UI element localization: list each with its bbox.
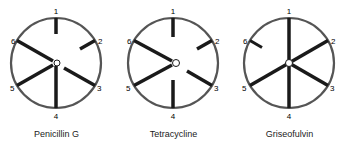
spoke-label-3: 3 — [214, 84, 219, 93]
spoke-label-4: 4 — [287, 112, 292, 121]
spoke-label-1: 1 — [287, 7, 292, 16]
spoke-label-6: 6 — [11, 37, 16, 46]
streak-6 — [134, 41, 172, 62]
caption: Tetracycline — [117, 129, 230, 139]
spoke-label-2: 2 — [98, 37, 103, 46]
caption: Griseofulvin — [233, 129, 339, 139]
spoke-label-5: 5 — [10, 84, 15, 93]
spoke-label-3: 3 — [330, 84, 335, 93]
antibiotic-disc — [286, 60, 293, 67]
spoke-label-3: 3 — [97, 84, 102, 93]
antibiotic-disc — [54, 60, 60, 66]
spoke-label-5: 5 — [126, 84, 131, 93]
streak-6 — [250, 41, 262, 48]
panel-tetracycline: 1 2 3 4 5 6 Tetracycline — [117, 0, 230, 146]
spoke-label-6: 6 — [127, 37, 132, 46]
panel-griseofulvin: 1 2 3 4 5 6 Griseofulvin — [233, 0, 339, 146]
streak-plate-diagram: 1 2 3 4 5 6 — [0, 0, 113, 130]
streak-plate-diagram: 1 2 3 4 5 6 — [233, 0, 339, 130]
spoke-label-1: 1 — [54, 7, 59, 16]
streak-2 — [80, 41, 95, 50]
spoke-label-1: 1 — [171, 7, 176, 16]
spoke-label-4: 4 — [171, 112, 176, 121]
spoke-label-4: 4 — [54, 112, 59, 121]
panel-penicillin-g: 1 2 3 4 5 6 Penicillin G — [0, 0, 113, 146]
streak-3 — [289, 63, 328, 86]
caption: Penicillin G — [0, 129, 113, 139]
spoke-label-2: 2 — [331, 37, 336, 46]
streak-5 — [17, 65, 53, 86]
streak-2 — [197, 41, 212, 50]
streak-3 — [64, 68, 95, 86]
streak-plate-diagram: 1 2 3 4 5 6 — [117, 0, 230, 130]
streak-3 — [187, 71, 212, 86]
antibiotic-disc — [173, 60, 180, 67]
spoke-label-5: 5 — [242, 84, 247, 93]
streak-5 — [134, 65, 172, 86]
spoke-label-6: 6 — [243, 37, 248, 46]
spoke-label-2: 2 — [215, 37, 220, 46]
streak-6 — [17, 41, 53, 62]
